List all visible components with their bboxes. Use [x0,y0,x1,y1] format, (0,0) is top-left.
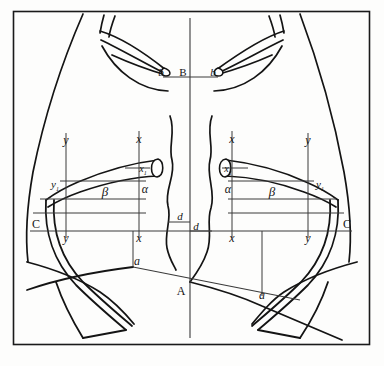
label-beta-left: β [101,184,109,199]
label-b-right: b [210,66,216,78]
label-x-top-right: x [228,132,235,146]
label-a-right: a [259,288,265,302]
label-x-base-left: x [135,231,142,245]
label-y-top-right: y [304,133,311,147]
label-A-center: A [177,284,186,298]
label-beta-right: β [268,184,276,199]
figure-svg: b B b y y x x x1 x1 α α [0,0,384,366]
label-B-center: B [179,66,186,78]
rib-left-cap [152,159,163,177]
label-alpha-right: α [225,182,232,196]
figure-background [0,0,384,366]
label-x-top-left: x [135,132,142,146]
label-C-left: C [32,217,40,231]
label-b-left: b [158,66,164,78]
label-x-base-right: x [228,231,235,245]
label-C-right: C [343,217,351,231]
label-d-left: d [177,210,183,222]
label-y-top-left: y [62,133,69,147]
label-y-base-right: y [304,231,311,245]
label-y-base-left: y [62,231,69,245]
label-a-left: a [134,254,140,268]
label-alpha-left: α [142,182,149,196]
figure-root: b B b y y x x x1 x1 α α [0,0,384,366]
label-d-right: d [193,220,199,232]
